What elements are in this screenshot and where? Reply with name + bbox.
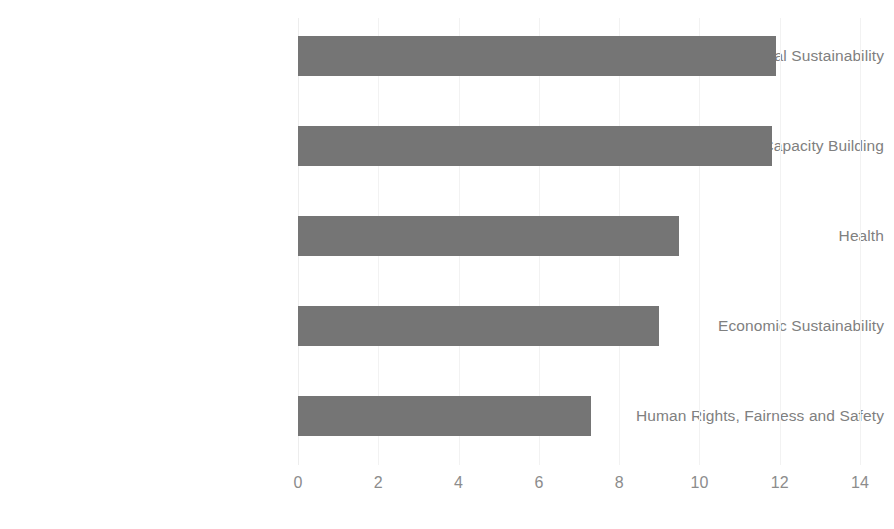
bar-row[interactable] — [298, 126, 862, 166]
x-tick-label: 10 — [669, 472, 729, 494]
bar[interactable] — [298, 216, 679, 256]
bar[interactable] — [298, 396, 591, 436]
x-tick-label: 0 — [268, 472, 328, 494]
x-tick-label: 2 — [348, 472, 408, 494]
plot-area — [298, 18, 862, 465]
bar-row[interactable] — [298, 306, 862, 346]
bar-row[interactable] — [298, 396, 862, 436]
bar-chart: Environmental Sustainability Education a… — [0, 0, 894, 529]
x-tick-label: 12 — [750, 472, 810, 494]
bar-row[interactable] — [298, 36, 862, 76]
x-tick-label: 4 — [429, 472, 489, 494]
bar[interactable] — [298, 36, 776, 76]
x-tick-label: 8 — [589, 472, 649, 494]
bar-row[interactable] — [298, 216, 862, 256]
x-tick-label: 6 — [509, 472, 569, 494]
x-tick-label: 14 — [830, 472, 890, 494]
bar[interactable] — [298, 306, 659, 346]
bar[interactable] — [298, 126, 772, 166]
